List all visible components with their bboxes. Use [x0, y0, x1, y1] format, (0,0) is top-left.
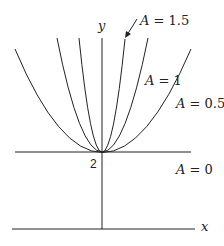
label-a-1: A = 1 — [145, 74, 182, 87]
pointer-arrowhead-icon — [125, 31, 131, 38]
diagram-svg — [0, 0, 224, 246]
label-a-0-5: A = 0.5 — [176, 97, 224, 110]
label-a-0: A = 0 — [176, 163, 213, 176]
x-axis-label: x — [201, 220, 208, 233]
vertex-label: 2 — [90, 158, 97, 170]
y-axis-label: y — [98, 19, 105, 32]
parabola-family-diagram: y x 2 A = 1.5 A = 1 A = 0.5 A = 0 — [0, 0, 224, 246]
label-a-1-5: A = 1.5 — [140, 14, 189, 27]
curve-a-0-5 — [15, 49, 191, 153]
